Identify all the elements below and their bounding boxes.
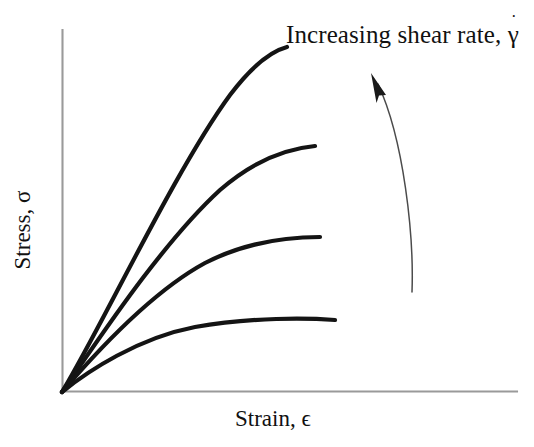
chart-canvas [0, 0, 534, 447]
curves-group [62, 47, 335, 392]
annotation-arrow [371, 73, 412, 292]
curve-shear-rate-2 [62, 237, 320, 392]
y-axis-label-text: Stress, σ [11, 191, 34, 270]
gamma-dot-symbol: γ˙ [508, 22, 519, 47]
annotation-label-text: Increasing shear rate, [286, 21, 508, 48]
chart-figure: Increasing shear rate, γ˙ Strain, ϵ Stre… [0, 0, 534, 447]
x-axis-label: Strain, ϵ [235, 407, 311, 430]
curve-shear-rate-3 [62, 146, 315, 392]
annotation-arrow-shaft [378, 84, 412, 292]
axes-group [62, 30, 517, 392]
annotation-label: Increasing shear rate, γ˙ [286, 22, 519, 47]
overdot-glyph: ˙ [511, 13, 517, 31]
y-axis-label: Stress, σ [0, 160, 44, 300]
